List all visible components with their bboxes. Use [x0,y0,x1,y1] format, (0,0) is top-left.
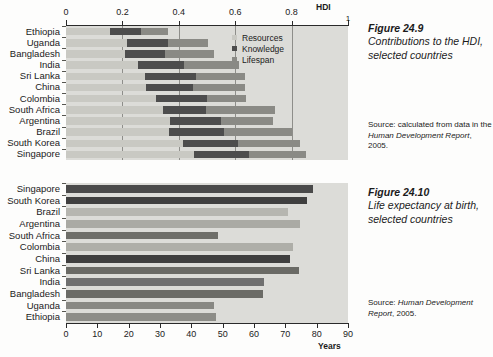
category-label: South Africa [0,231,60,241]
bar-segment-lifespan [238,140,300,148]
x-tick [179,21,180,25]
bar-row [66,61,348,69]
bar [66,255,290,263]
x-tick-label: 80 [303,329,331,339]
category-label: Brazil [0,127,60,137]
y-tick [62,138,66,139]
bar [66,267,299,275]
x-tick-label: 10 [83,329,111,339]
bar-segment-resources [66,128,169,136]
y-tick [62,218,66,219]
bar-segment-lifespan [196,73,245,81]
y-tick [62,104,66,105]
x-tick [285,324,286,328]
bar [66,197,307,205]
category-label: Bangladesh [0,49,60,59]
figure-hdi-source-prefix: Source: calculated from data in the [368,120,492,129]
y-tick [62,48,66,49]
hdi-legend: Resources Knowledge Lifespan [232,32,284,65]
bar-segment-resources [66,61,138,69]
legend-swatch-resources [232,35,237,40]
x-tick-label: 60 [240,329,268,339]
x-tick-label: 0 [52,329,80,339]
bar-row [66,302,348,310]
category-label: Uganda [0,38,60,48]
bar-row [66,290,348,298]
category-label: Sri Lanka [0,71,60,81]
bar-row [66,39,348,47]
bar-segment-lifespan [249,151,305,159]
bar-segment-lifespan [224,128,292,136]
life-plot-area [66,183,348,323]
y-tick [62,288,66,289]
bar-segment-resources [66,151,194,159]
bar [66,208,288,216]
bar-segment-knowledge [163,106,205,114]
category-label: South Korea [0,138,60,148]
bar-segment-knowledge [110,28,141,36]
bar-segment-lifespan [221,117,273,125]
figure-life-caption-title: Figure 24.10 [368,186,488,199]
category-label: Ethiopia [0,312,60,322]
legend-item-lifespan: Lifespan [232,54,284,65]
bar-segment-knowledge [146,84,193,92]
figure-hdi-source: Source: calculated from data in the Huma… [368,120,493,152]
legend-swatch-lifespan [232,57,237,62]
bar-segment-lifespan [168,39,209,47]
y-tick [62,127,66,128]
hdi-plot-area [66,26,348,160]
bar-segment-knowledge [127,39,168,47]
bar-segment-lifespan [206,106,275,114]
y-tick [62,149,66,150]
category-label: Singapore [0,149,60,159]
bar-row [66,197,348,205]
bar-row [66,151,348,159]
bar [66,243,293,251]
y-tick [62,276,66,277]
bar-row [66,95,348,103]
bar [66,220,300,228]
category-label: Singapore [0,184,60,194]
bar [66,185,313,193]
category-label: China [0,254,60,264]
bar-segment-knowledge [145,73,196,81]
bar-segment-resources [66,95,156,103]
bar-segment-resources [66,28,110,36]
category-label: Colombia [0,242,60,252]
bar-row [66,28,348,36]
x-tick-label: 1 [334,14,362,23]
legend-label-knowledge: Knowledge [242,44,284,54]
bar-segment-resources [66,50,125,58]
figure-life-caption: Figure 24.10 Life expectancy at birth, s… [368,186,488,226]
bar [66,278,264,286]
bar-segment-lifespan [193,84,245,92]
y-tick [62,206,66,207]
figure-hdi-caption-body: Contributions to the HDI, selected count… [368,35,488,62]
legend-swatch-knowledge [232,46,237,51]
x-tick-label: 50 [209,329,237,339]
legend-item-resources: Resources [232,32,284,43]
bar-row [66,255,348,263]
x-tick-label: 0.8 [278,7,306,17]
x-tick [235,21,236,25]
bar-row [66,140,348,148]
bar-row [66,220,348,228]
bar-row [66,278,348,286]
bar-row [66,185,348,193]
bar-segment-resources [66,117,170,125]
y-tick [62,37,66,38]
x-tick [317,324,318,328]
axis-end-cap-left [66,323,67,328]
bar-segment-knowledge [125,50,164,58]
figure-hdi: 00.20.40.60.81HDI EthiopiaUgandaBanglade… [0,0,360,168]
figure-life-caption-body: Life expectancy at birth, selected count… [368,199,488,226]
bar-row [66,84,348,92]
figure-hdi-caption: Figure 24.9 Contributions to the HDI, se… [368,22,488,62]
category-label: Sri Lanka [0,266,60,276]
y-tick [62,71,66,72]
figure-hdi-caption-title: Figure 24.9 [368,22,488,35]
bar-segment-resources [66,84,146,92]
y-tick [62,93,66,94]
figure-life-source: Source: Human Development Report, 2005. [368,298,493,319]
bar-segment-lifespan [165,50,214,58]
